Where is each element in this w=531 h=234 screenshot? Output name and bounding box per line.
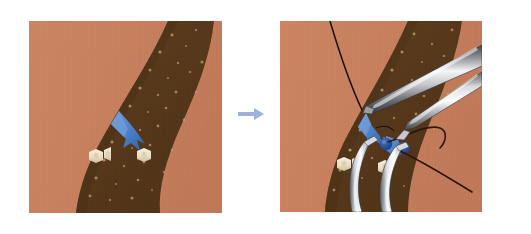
figure-root: Two-panel surgical illustration: vessel …: [0, 0, 531, 234]
node-left-highlight: [382, 140, 386, 144]
panel-after: [280, 21, 482, 212]
arrow-shaft: [238, 112, 256, 116]
node-left: [380, 138, 392, 150]
panel-before: [29, 21, 222, 213]
illustration-canvas: [0, 0, 531, 234]
